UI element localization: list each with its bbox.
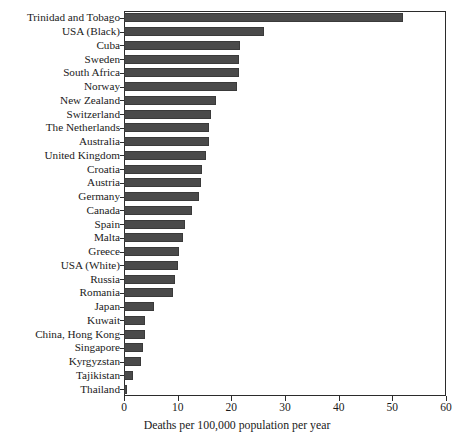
x-axis-tick-labels: 0102030405060: [0, 401, 474, 415]
x-axis-tick-label: 60: [440, 401, 452, 414]
y-axis-label: Switzerland: [0, 109, 120, 120]
bar: [124, 288, 173, 297]
x-axis-tick-label: 50: [387, 401, 399, 414]
y-axis-label: Sweden: [0, 54, 120, 65]
y-axis-label: Greece: [0, 246, 120, 257]
bar: [124, 55, 239, 64]
y-axis-label: The Netherlands: [0, 122, 120, 133]
bar: [124, 371, 133, 380]
y-axis-label: United Kingdom: [0, 150, 120, 161]
bar: [124, 357, 141, 366]
bar: [124, 82, 237, 91]
y-axis-label: Malta: [0, 232, 120, 243]
bar: [124, 96, 216, 105]
bar: [124, 41, 240, 50]
bar: [124, 123, 209, 132]
bar: [124, 261, 178, 270]
bars-layer: [124, 11, 446, 396]
bar: [124, 165, 202, 174]
bar: [124, 385, 127, 394]
y-axis-label: Trinidad and Tobago: [0, 12, 120, 23]
bar: [124, 68, 239, 77]
y-axis-label: Russia: [0, 274, 120, 285]
bar-chart-figure: Trinidad and TobagoUSA (Black)CubaSweden…: [0, 0, 474, 443]
x-axis-tick-label: 40: [333, 401, 345, 414]
y-axis-label: Norway: [0, 81, 120, 92]
bar: [124, 178, 201, 187]
y-axis-label: Austria: [0, 177, 120, 188]
bar: [124, 151, 206, 160]
bar: [124, 343, 143, 352]
x-axis-tick-label: 10: [172, 401, 184, 414]
y-axis-label: Romania: [0, 287, 120, 298]
bar: [124, 275, 175, 284]
y-axis-label: Singapore: [0, 342, 120, 353]
y-axis-label: Kyrgyzstan: [0, 356, 120, 367]
bar: [124, 316, 145, 325]
y-axis-label: Germany: [0, 191, 120, 202]
y-axis-label: Australia: [0, 136, 120, 147]
y-axis-label: China, Hong Kong: [0, 329, 120, 340]
y-axis-label: Thailand: [0, 384, 120, 395]
y-axis-label: Croatia: [0, 164, 120, 175]
bar: [124, 206, 192, 215]
x-axis-tick-label: 20: [226, 401, 238, 414]
bar: [124, 27, 264, 36]
y-axis-label: South Africa: [0, 67, 120, 78]
bar: [124, 220, 185, 229]
y-axis-label: Spain: [0, 219, 120, 230]
bar: [124, 302, 154, 311]
bar: [124, 247, 179, 256]
y-axis-label: Japan: [0, 301, 120, 312]
bar: [124, 233, 183, 242]
bar: [124, 110, 211, 119]
y-axis-label: New Zealand: [0, 95, 120, 106]
bar: [124, 330, 145, 339]
bar: [124, 137, 209, 146]
x-axis-tick-label: 30: [279, 401, 291, 414]
y-axis-label: USA (White): [0, 260, 120, 271]
x-axis-tick-label: 0: [121, 401, 127, 414]
y-axis-label: Cuba: [0, 40, 120, 51]
bar: [124, 192, 199, 201]
x-axis-title: Deaths per 100,000 population per year: [0, 418, 474, 433]
y-axis-label: Canada: [0, 205, 120, 216]
y-axis-label: USA (Black): [0, 26, 120, 37]
y-axis-label: Tajikistan: [0, 370, 120, 381]
bar: [124, 13, 403, 22]
y-axis-label: Kuwait: [0, 315, 120, 326]
y-axis-category-labels: Trinidad and TobagoUSA (Black)CubaSweden…: [0, 11, 120, 396]
